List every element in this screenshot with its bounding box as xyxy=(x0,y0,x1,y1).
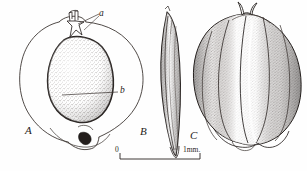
figure-label-b: B xyxy=(140,126,147,137)
callout-label-a: a xyxy=(99,9,104,19)
plate-artwork xyxy=(0,0,307,171)
figure-a-artwork xyxy=(20,10,143,149)
figure-label-a: A xyxy=(25,125,32,136)
callout-label-b: b xyxy=(120,86,125,96)
scale-zero-label: 0 xyxy=(115,146,119,154)
botanical-plate: A B C a b 0 1mm. xyxy=(0,0,307,171)
figure-label-c: C xyxy=(190,130,198,141)
scale-max-label: 1mm. xyxy=(183,146,200,154)
figure-c-artwork xyxy=(193,2,301,151)
figure-b-artwork xyxy=(161,6,181,158)
